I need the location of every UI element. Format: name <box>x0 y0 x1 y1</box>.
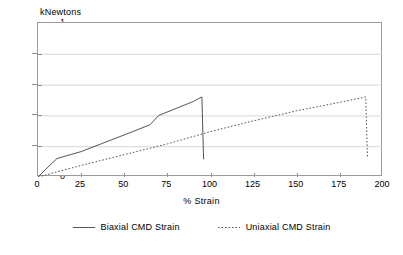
x-axis-tick-label: 125 <box>233 180 273 189</box>
x-axis-tick-label: 200 <box>362 180 402 189</box>
x-axis-tick-label: 50 <box>103 180 143 189</box>
x-axis-title: % Strain <box>0 196 403 206</box>
solid-line-icon <box>73 224 95 231</box>
dotted-line-icon <box>218 224 240 231</box>
legend-item-1[interactable]: Biaxial CMD Strain <box>73 222 180 232</box>
series-line-1 <box>38 97 204 177</box>
legend-label: Biaxial CMD Strain <box>101 222 180 232</box>
x-axis-tick-label: 25 <box>60 180 100 189</box>
plot-canvas <box>38 23 383 177</box>
legend-label: Uniaxial CMD Strain <box>246 222 331 232</box>
x-axis-tick-label: 75 <box>146 180 186 189</box>
x-axis-tick-label: 0 <box>17 180 57 189</box>
plot-area <box>37 22 382 176</box>
legend-item-2[interactable]: Uniaxial CMD Strain <box>218 222 331 232</box>
x-axis-tick-label: 175 <box>319 180 359 189</box>
y-axis-unit-label: kNewtons <box>40 7 81 17</box>
chart-legend: Biaxial CMD StrainUniaxial CMD Strain <box>0 222 403 232</box>
x-axis-tick-label: 100 <box>190 180 230 189</box>
chart-container: kNewtons 10.80.60.40.20 0255075100125150… <box>0 0 403 255</box>
x-axis-tick-label: 150 <box>276 180 316 189</box>
